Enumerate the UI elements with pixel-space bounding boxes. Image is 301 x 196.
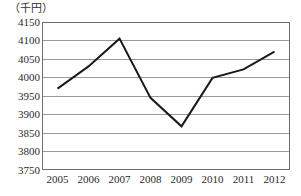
y-tick-label: 4150: [0, 17, 40, 28]
chart-svg: [42, 22, 290, 170]
y-tick-label: 4000: [0, 72, 40, 83]
x-tick-label: 2009: [171, 173, 193, 185]
x-tick-label: 2011: [233, 173, 255, 185]
data-series-line: [58, 39, 275, 127]
x-tick-label: 2010: [202, 173, 224, 185]
y-tick-label: 4100: [0, 35, 40, 46]
y-tick-label: 4050: [0, 54, 40, 65]
x-axis-tick-labels: 20052006200720082009201020112012: [42, 173, 290, 191]
y-tick-label: 3950: [0, 91, 40, 102]
x-tick-label: 2006: [78, 173, 100, 185]
gridlines-group: [42, 41, 290, 152]
y-axis-tick-labels: 375038003850390039504000405041004150: [0, 0, 40, 196]
plot-area: [42, 22, 290, 170]
y-tick-label: 3900: [0, 109, 40, 120]
x-tick-label: 2012: [264, 173, 286, 185]
x-tick-label: 2005: [47, 173, 69, 185]
y-tick-label: 3850: [0, 128, 40, 139]
x-tick-label: 2007: [109, 173, 131, 185]
y-tick-label: 3750: [0, 165, 40, 176]
y-tick-label: 3800: [0, 146, 40, 157]
x-tick-label: 2008: [140, 173, 162, 185]
line-chart: （千円） 37503800385039003950400040504100415…: [0, 0, 301, 196]
